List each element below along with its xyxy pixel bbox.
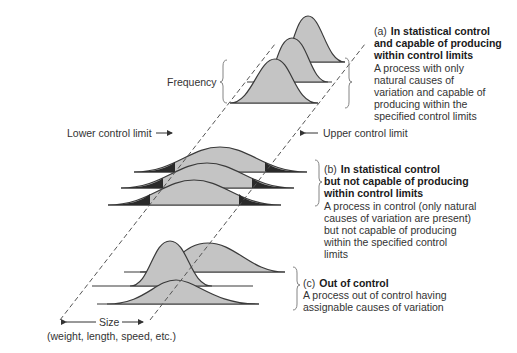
frequency-label: Frequency bbox=[167, 76, 217, 88]
panel-b-heading: (b)In statistical control bbox=[324, 163, 514, 175]
panel-b-curves bbox=[108, 147, 307, 205]
size-axis-label: Size bbox=[99, 316, 119, 328]
upper-control-limit-label: Upper control limit bbox=[323, 127, 408, 139]
size-axis-sublabel: (weight, length, speed, etc.) bbox=[47, 330, 176, 342]
frequency-brace bbox=[220, 60, 227, 103]
lower-control-limit-label: Lower control limit bbox=[67, 127, 152, 139]
panel-b-brace bbox=[315, 160, 322, 206]
panel-b-description: (b)In statistical control but not capabl… bbox=[324, 163, 514, 261]
curve-c-front bbox=[97, 280, 259, 304]
panel-c-curves bbox=[92, 241, 285, 304]
panel-a-heading: (a)In statistical control bbox=[374, 25, 517, 37]
panel-c-brace bbox=[293, 267, 300, 310]
panel-c-heading: (c)Out of control bbox=[303, 277, 513, 289]
panel-a-curves bbox=[230, 16, 345, 103]
panel-c-description: (c)Out of control A process out of contr… bbox=[303, 277, 513, 314]
panel-a-description: (a)In statistical control and capable of… bbox=[374, 25, 517, 123]
